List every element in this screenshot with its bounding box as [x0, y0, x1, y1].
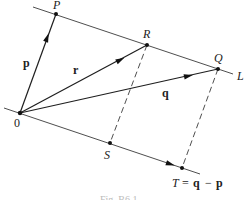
- point-O: [18, 111, 22, 115]
- svg-text:=: =: [182, 176, 189, 190]
- point-R: [145, 43, 149, 47]
- point-T: [180, 166, 184, 170]
- point-Q: [216, 67, 220, 71]
- dashed-segment-QT: [182, 69, 218, 168]
- arrowhead-T-icon: [165, 160, 175, 168]
- arrowhead-q-icon: [184, 72, 194, 79]
- label-P: P: [52, 0, 61, 12]
- label-O: 0: [14, 116, 20, 130]
- svg-text:p: p: [216, 176, 223, 190]
- arrowhead-p-icon: [43, 32, 51, 42]
- label-vector-q: q: [162, 86, 169, 100]
- svg-text:−: −: [205, 176, 212, 190]
- label-R: R: [142, 27, 151, 41]
- label-vector-p: p: [23, 56, 30, 70]
- svg-text:q: q: [193, 176, 200, 190]
- label-L: L: [236, 69, 244, 83]
- point-S: [108, 141, 112, 145]
- label-Q: Q: [214, 51, 223, 65]
- figure-caption: Fig. B6.1: [100, 194, 138, 200]
- line-L: [33, 7, 233, 74]
- vector-r: [20, 45, 147, 113]
- vector-line-diagram: 0 P R Q S L p r q T = q − p Fig. B6.1: [0, 0, 247, 200]
- label-vector-r: r: [73, 63, 79, 77]
- svg-text:T: T: [172, 176, 180, 190]
- label-S: S: [104, 148, 110, 162]
- label-T-equation: T = q − p: [172, 176, 223, 190]
- point-P: [54, 12, 58, 16]
